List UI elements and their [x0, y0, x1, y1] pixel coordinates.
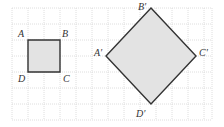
vertex-label-c-prime: C′	[199, 47, 209, 58]
vertex-label-b-prime: B′	[138, 1, 147, 12]
square-abcd	[28, 40, 60, 72]
vertex-label-b: B	[62, 28, 68, 39]
vertex-label-a-prime: A′	[93, 47, 103, 58]
vertex-label-a: A	[17, 28, 25, 39]
vertex-label-d: D	[17, 73, 26, 84]
square-a-prime-b-prime-c-prime-d-prime	[106, 8, 196, 104]
vertex-label-c: C	[63, 73, 70, 84]
diagram-canvas: A B C D A′ B′ C′ D′	[0, 0, 224, 127]
vertex-label-d-prime: D′	[135, 108, 146, 119]
